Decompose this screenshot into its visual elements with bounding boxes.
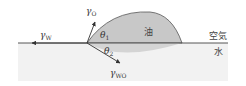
oil-label: 油 [144, 26, 153, 37]
diagram: γW γO γWO θ1 θ2 油 空気 水 [0, 0, 246, 86]
air-label: 空気 [209, 30, 227, 41]
gamma-w-label: γW [40, 30, 52, 41]
interface-diagram-svg: γW γO γWO θ1 θ2 油 空気 水 [0, 0, 246, 86]
gamma-o-label: γO [86, 6, 96, 17]
water-label: 水 [214, 46, 223, 57]
